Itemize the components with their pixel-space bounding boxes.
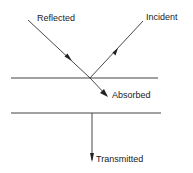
reflected-label: Reflected: [37, 13, 75, 23]
transmitted-arrowhead-icon: [90, 153, 94, 162]
incident-arrowhead-icon: [113, 48, 119, 56]
transmitted-label: Transmitted: [96, 154, 143, 164]
incident-label: Incident: [146, 12, 178, 22]
light-interaction-diagram: Reflected Incident Absorbed Transmitted: [0, 0, 193, 173]
reflected-ray: [28, 20, 90, 78]
absorbed-label: Absorbed: [112, 90, 151, 100]
